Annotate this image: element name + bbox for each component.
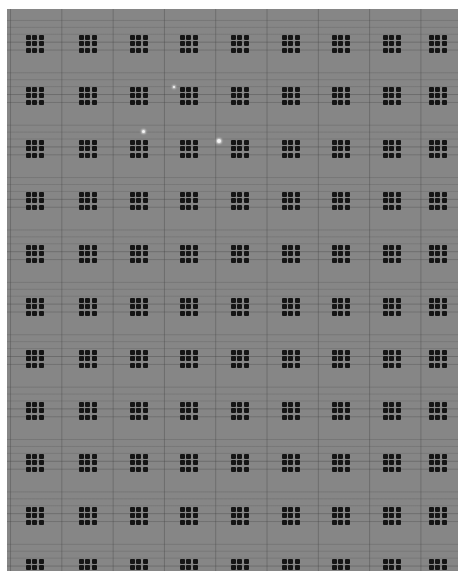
dot-cluster	[282, 35, 299, 52]
dot	[39, 153, 44, 158]
dot	[332, 513, 337, 518]
dot	[85, 258, 90, 263]
dot	[345, 100, 350, 105]
dot-cluster	[180, 245, 197, 262]
dot	[288, 205, 293, 210]
dot	[295, 363, 300, 368]
dot	[26, 467, 31, 472]
dot	[79, 350, 84, 355]
dot	[26, 41, 31, 46]
dot	[39, 467, 44, 472]
dot	[332, 153, 337, 158]
dot	[338, 93, 343, 98]
dot	[345, 507, 350, 512]
dot	[32, 408, 37, 413]
dot	[26, 258, 31, 263]
dot	[79, 100, 84, 105]
dot	[79, 153, 84, 158]
dot	[237, 356, 242, 361]
dot	[442, 41, 447, 46]
dot	[143, 192, 148, 197]
dot	[237, 100, 242, 105]
dot	[26, 35, 31, 40]
dot	[92, 245, 97, 250]
dot	[130, 298, 135, 303]
dot	[130, 205, 135, 210]
dot	[244, 100, 249, 105]
dot	[85, 520, 90, 525]
dot	[85, 245, 90, 250]
dot	[442, 93, 447, 98]
dot	[130, 48, 135, 53]
dot	[193, 415, 198, 420]
dot	[345, 513, 350, 518]
dot	[92, 415, 97, 420]
dot	[39, 520, 44, 525]
dot	[295, 192, 300, 197]
dot	[237, 363, 242, 368]
dot-cluster	[79, 192, 96, 209]
dot	[39, 140, 44, 145]
dot-cluster	[130, 298, 147, 315]
dot	[338, 467, 343, 472]
dot	[231, 402, 236, 407]
dot	[193, 565, 198, 570]
dot	[193, 251, 198, 256]
dot-cluster	[332, 87, 349, 104]
dot-cluster	[231, 245, 248, 262]
dot	[429, 467, 434, 472]
dot	[186, 311, 191, 316]
dot	[288, 513, 293, 518]
dot	[79, 35, 84, 40]
dot	[143, 304, 148, 309]
dot	[186, 205, 191, 210]
dot	[429, 48, 434, 53]
dot	[389, 520, 394, 525]
dot	[288, 251, 293, 256]
dot	[85, 205, 90, 210]
dot	[136, 35, 141, 40]
dot-cluster	[231, 140, 248, 157]
dot	[295, 559, 300, 564]
dot	[338, 311, 343, 316]
dot	[282, 198, 287, 203]
dot	[435, 565, 440, 570]
dot	[442, 565, 447, 570]
dot	[288, 198, 293, 203]
dot	[396, 35, 401, 40]
dot	[237, 304, 242, 309]
dot	[244, 454, 249, 459]
dot	[396, 415, 401, 420]
dot	[383, 251, 388, 256]
dot	[338, 408, 343, 413]
dot	[193, 304, 198, 309]
dot	[429, 198, 434, 203]
dot	[39, 41, 44, 46]
dot	[143, 205, 148, 210]
dot	[345, 415, 350, 420]
dot	[429, 311, 434, 316]
dot	[32, 87, 37, 92]
dot	[345, 35, 350, 40]
dot	[442, 408, 447, 413]
dot	[186, 304, 191, 309]
dot	[231, 520, 236, 525]
dot	[143, 467, 148, 472]
dot	[193, 513, 198, 518]
dot	[92, 356, 97, 361]
dot-cluster	[383, 298, 400, 315]
dot	[193, 402, 198, 407]
dot	[295, 153, 300, 158]
dot-cluster	[429, 454, 446, 471]
dot	[85, 251, 90, 256]
dot	[231, 140, 236, 145]
dot	[85, 140, 90, 145]
dot	[288, 35, 293, 40]
dot	[136, 245, 141, 250]
dot	[130, 146, 135, 151]
dot	[389, 245, 394, 250]
dot	[32, 460, 37, 465]
dot	[32, 559, 37, 564]
dot	[92, 198, 97, 203]
dot	[79, 513, 84, 518]
